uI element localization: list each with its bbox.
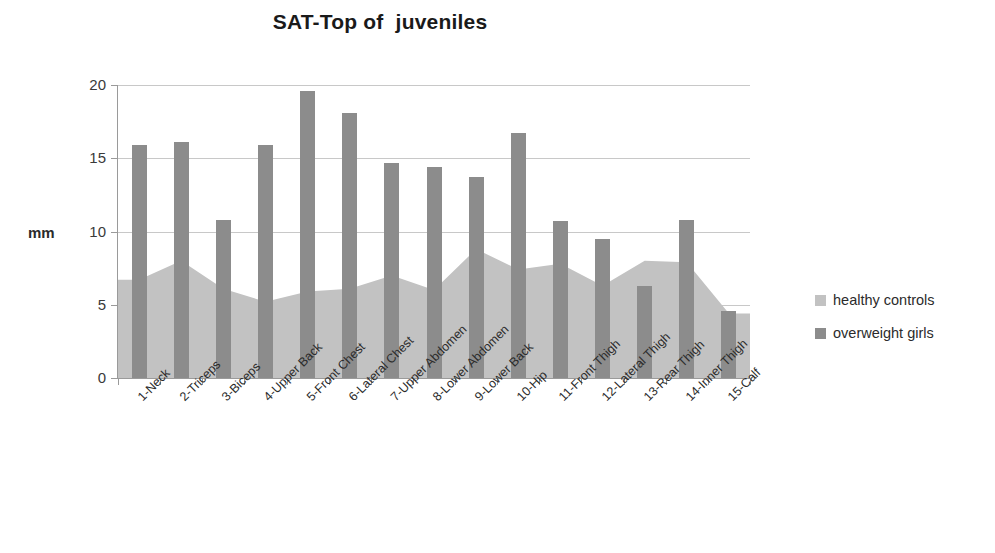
- bar: [132, 145, 147, 378]
- chart-legend: healthy controlsoverweight girls: [815, 292, 935, 358]
- bar: [216, 220, 231, 378]
- y-axis-tick-label: 10: [66, 223, 106, 240]
- y-axis-tick-label: 5: [66, 296, 106, 313]
- y-axis-tick-label: 15: [66, 149, 106, 166]
- legend-swatch-icon: [815, 328, 826, 339]
- plot-area: [118, 85, 750, 378]
- bar: [300, 91, 315, 378]
- chart-container: SAT-Top of juveniles mm 05101520 1-Neck2…: [0, 0, 995, 553]
- legend-item[interactable]: overweight girls: [815, 325, 935, 341]
- bar: [342, 113, 357, 378]
- bar: [553, 221, 568, 378]
- chart-title: SAT-Top of juveniles: [0, 10, 760, 34]
- y-axis-unit-label: mm: [28, 224, 55, 241]
- bar: [174, 142, 189, 378]
- x-axis-category-labels: 1-Neck2-Triceps3-Biceps4-Upper Back5-Fro…: [0, 378, 995, 553]
- legend-label: overweight girls: [833, 325, 934, 341]
- legend-item[interactable]: healthy controls: [815, 292, 935, 308]
- bar: [258, 145, 273, 378]
- legend-swatch-icon: [815, 295, 826, 306]
- legend-label: healthy controls: [833, 292, 935, 308]
- y-axis-tick-label: 20: [66, 76, 106, 93]
